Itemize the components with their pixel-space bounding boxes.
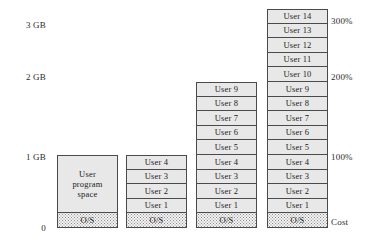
user-row: User 2 — [126, 184, 187, 199]
user-row: User 11 — [267, 53, 328, 68]
axis-left-tick-1gb: 1 GB — [2, 152, 46, 162]
axis-right-caption-cost: Cost — [331, 217, 348, 227]
axis-right-tick-300: 300% — [331, 16, 353, 26]
column-2-four-users: User 4 User 3 User 2 User 1 O/S — [126, 0, 187, 228]
user-row: User 7 — [267, 111, 328, 126]
user-row: User 2 — [267, 184, 328, 199]
axis-right-tick-100: 100% — [331, 152, 353, 162]
axis-right-tick-200: 200% — [331, 72, 353, 82]
user-row: User 1 — [267, 199, 328, 214]
axis-left-tick-zero: 0 — [2, 223, 46, 233]
user-row: User 9 — [267, 82, 328, 97]
user-row: User 6 — [196, 126, 257, 141]
user-row: User 14 — [267, 9, 328, 24]
os-box-column-4: O/S — [267, 213, 328, 228]
user-row: User 3 — [267, 170, 328, 185]
user-row: User 10 — [267, 67, 328, 82]
user-row: User 4 — [267, 155, 328, 170]
program-space-line-1: User — [79, 169, 96, 179]
user-row: User 3 — [196, 170, 257, 185]
program-space-line-2: program — [72, 179, 102, 189]
column-3-nine-users: User 9 User 8 User 7 User 6 User 5 User … — [196, 0, 257, 228]
column-4-fourteen-users: User 14 User 13 User 12 User 11 User 10 … — [267, 0, 328, 228]
axis-left-tick-2gb: 2 GB — [2, 72, 46, 82]
user-row: User 1 — [196, 199, 257, 214]
program-space-line-3: space — [78, 189, 98, 199]
user-row: User 9 — [196, 82, 257, 97]
user-row: User 5 — [267, 140, 328, 155]
user-row: User 12 — [267, 38, 328, 53]
user-row: User 13 — [267, 24, 328, 39]
os-label: O/S — [291, 216, 305, 225]
os-label: O/S — [150, 216, 164, 225]
user-row: User 4 — [196, 155, 257, 170]
user-row: User 8 — [196, 97, 257, 112]
user-row: User 8 — [267, 97, 328, 112]
os-box-column-1: O/S — [57, 213, 118, 228]
os-box-column-3: O/S — [196, 213, 257, 228]
user-row: User 1 — [126, 199, 187, 214]
memory-cost-diagram: 3 GB 2 GB 1 GB 0 300% 200% 100% Cost Use… — [0, 0, 369, 242]
user-row: User 4 — [126, 155, 187, 170]
os-label: O/S — [220, 216, 234, 225]
user-row: User 3 — [126, 170, 187, 185]
user-row: User 2 — [196, 184, 257, 199]
os-box-column-2: O/S — [126, 213, 187, 228]
os-label: O/S — [81, 216, 95, 225]
user-row: User 7 — [196, 111, 257, 126]
user-row: User 5 — [196, 140, 257, 155]
axis-left-tick-3gb: 3 GB — [2, 20, 46, 30]
user-program-space-box: User program space — [57, 155, 118, 213]
column-1-single-user: User program space O/S — [57, 0, 118, 228]
user-row: User 6 — [267, 126, 328, 141]
